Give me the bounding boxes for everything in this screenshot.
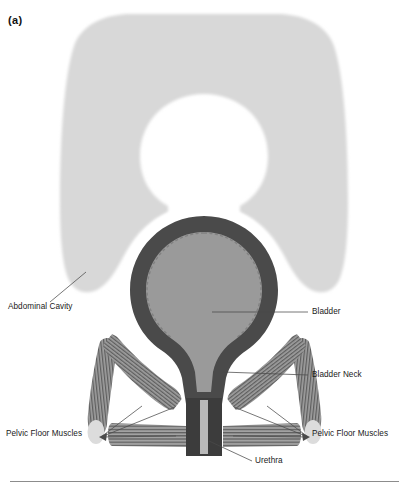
urethra-lumen <box>200 400 208 454</box>
label-pelvic-floor-muscles-left: Pelvic Floor Muscles <box>6 430 82 438</box>
label-bladder: Bladder <box>312 308 341 316</box>
figure-page: (a) Abdominal Cavity Bladder Bladder Nec… <box>0 0 409 491</box>
urethra-organ <box>186 398 222 456</box>
label-abdominal-cavity: Abdominal Cavity <box>8 303 73 311</box>
label-pelvic-floor-muscles-right: Pelvic Floor Muscles <box>312 430 388 438</box>
anatomy-diagram <box>0 0 409 491</box>
label-urethra: Urethra <box>255 457 283 465</box>
muscle-insertion-cap-left <box>88 420 105 444</box>
label-bladder-neck: Bladder Neck <box>312 371 362 379</box>
panel-letter: (a) <box>8 14 22 26</box>
